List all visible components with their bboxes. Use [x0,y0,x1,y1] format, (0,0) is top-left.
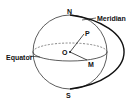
label-south: S [66,92,71,99]
label-equator: Equator [6,54,32,61]
op-line [70,34,84,52]
equator-front [33,52,107,61]
label-north: N [67,8,72,15]
equator-back [33,43,107,52]
label-m: M [88,61,94,68]
label-o: O [62,49,67,56]
meridian-arc [70,15,124,89]
om-line [70,52,87,60]
label-meridian: Meridian [97,15,126,22]
center-point [69,51,71,53]
label-p: P [85,30,90,37]
